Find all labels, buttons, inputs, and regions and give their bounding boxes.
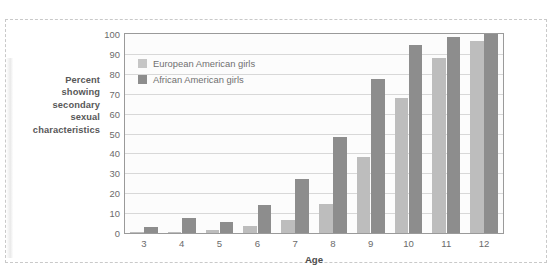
bar-ea-age-12 bbox=[470, 41, 484, 233]
y-axis-title-line-4: sexual bbox=[16, 111, 100, 123]
x-tick-label-7: 7 bbox=[292, 238, 297, 249]
bar-ea-age-7 bbox=[281, 220, 295, 233]
legend-swatch-african-american bbox=[138, 75, 147, 84]
y-tick-label: 0 bbox=[96, 228, 120, 239]
bar-aa-age-7 bbox=[295, 179, 309, 233]
x-tick-label-12: 12 bbox=[479, 238, 490, 249]
x-tick-label-9: 9 bbox=[368, 238, 373, 249]
bar-aa-age-9 bbox=[371, 79, 385, 233]
legend-item-african-american: African American girls bbox=[138, 73, 255, 86]
bar-ea-age-9 bbox=[357, 157, 371, 233]
bar-aa-age-6 bbox=[258, 205, 272, 233]
bar-aa-age-12 bbox=[484, 34, 498, 233]
bar-ea-age-5 bbox=[206, 230, 220, 233]
bar-group-age-7 bbox=[276, 34, 314, 233]
x-axis-title: Age bbox=[125, 254, 503, 265]
y-tick-label: 60 bbox=[96, 108, 120, 119]
y-axis-title-line-5: characteristics bbox=[16, 124, 100, 136]
legend-label-african-american: African American girls bbox=[153, 74, 244, 85]
y-axis-tick-labels: 0102030405060708090100 bbox=[96, 33, 120, 233]
y-tick-label: 40 bbox=[96, 148, 120, 159]
bar-ea-age-11 bbox=[432, 58, 446, 233]
legend-label-european-american: European American girls bbox=[153, 58, 255, 69]
bar-group-age-12 bbox=[465, 34, 503, 233]
legend-item-european-american: European American girls bbox=[138, 57, 255, 70]
bar-ea-age-4 bbox=[168, 232, 182, 233]
bar-group-age-11 bbox=[427, 34, 465, 233]
y-tick-label: 70 bbox=[96, 88, 120, 99]
bar-aa-age-5 bbox=[220, 222, 234, 233]
bar-aa-age-10 bbox=[409, 45, 423, 233]
bar-ea-age-6 bbox=[243, 226, 257, 233]
bar-chart-figure: Percent showing secondary sexual charact… bbox=[0, 0, 552, 280]
x-tick-label-5: 5 bbox=[217, 238, 222, 249]
y-tick-label: 20 bbox=[96, 188, 120, 199]
y-axis-title-line-2: showing bbox=[16, 86, 100, 98]
x-tick-label-10: 10 bbox=[403, 238, 414, 249]
y-axis-title: Percent showing secondary sexual charact… bbox=[16, 74, 100, 136]
bar-aa-age-4 bbox=[182, 218, 196, 233]
x-tick-label-11: 11 bbox=[441, 238, 451, 249]
legend-swatch-european-american bbox=[138, 59, 147, 68]
x-tick-label-8: 8 bbox=[330, 238, 335, 249]
x-axis-tick-labels: 3456789101112 bbox=[125, 238, 503, 252]
x-tick-label-4: 4 bbox=[179, 238, 184, 249]
y-tick-label: 90 bbox=[96, 48, 120, 59]
bar-ea-age-8 bbox=[319, 204, 333, 233]
x-tick-label-6: 6 bbox=[255, 238, 260, 249]
bar-group-age-10 bbox=[390, 34, 428, 233]
bar-ea-age-3 bbox=[130, 232, 144, 233]
y-axis-title-line-1: Percent bbox=[16, 74, 100, 86]
y-tick-label: 100 bbox=[96, 29, 120, 40]
bar-group-age-8 bbox=[314, 34, 352, 233]
y-tick-label: 30 bbox=[96, 168, 120, 179]
y-tick-label: 10 bbox=[96, 208, 120, 219]
chart-legend: European American girls African American… bbox=[138, 57, 255, 89]
x-tick-label-3: 3 bbox=[141, 238, 146, 249]
bar-aa-age-3 bbox=[144, 227, 158, 233]
bar-aa-age-8 bbox=[333, 137, 347, 234]
bar-ea-age-10 bbox=[395, 98, 409, 233]
y-tick-label: 80 bbox=[96, 68, 120, 79]
y-tick-label: 50 bbox=[96, 128, 120, 139]
bar-group-age-9 bbox=[352, 34, 390, 233]
y-axis-title-line-3: secondary bbox=[16, 99, 100, 111]
bar-aa-age-11 bbox=[447, 37, 461, 233]
